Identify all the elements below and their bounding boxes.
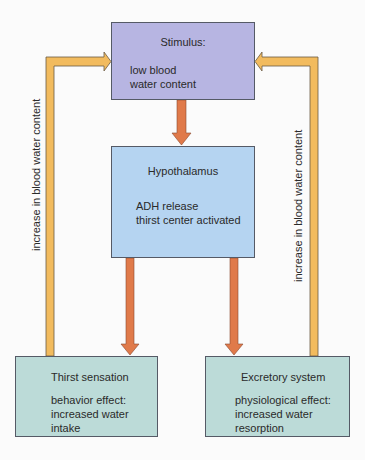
arrow-thirst-to-stimulus (46, 52, 111, 356)
thirst-title: Thirst sensation (51, 370, 129, 384)
thirst-body: behavior effect: increased water intake (51, 393, 129, 435)
arrow-stimulus-to-hypothalamus (172, 100, 191, 145)
hypothalamus-node: Hypothalamus ADH release thirst center a… (111, 146, 255, 258)
excretory-body: physiological effect: increased water re… (235, 393, 331, 435)
stimulus-node: Stimulus: low blood water content (111, 22, 255, 100)
stimulus-title: Stimulus: (112, 35, 254, 49)
hypothalamus-title: Hypothalamus (112, 164, 254, 178)
feedback-label-left: increase in blood water content (30, 99, 42, 251)
arrow-excretory-to-stimulus (255, 52, 318, 356)
hypothalamus-body: ADH release thirst center activated (136, 199, 241, 227)
thirst-sensation-node: Thirst sensation behavior effect: increa… (15, 356, 158, 437)
feedback-label-right: increase in blood water content (292, 130, 304, 282)
excretory-system-node: Excretory system physiological effect: i… (205, 356, 350, 437)
arrow-hypothalamus-to-thirst (121, 258, 139, 355)
arrow-hypothalamus-to-excretory (225, 258, 243, 355)
stimulus-body: low blood water content (130, 63, 196, 91)
excretory-title: Excretory system (241, 370, 325, 384)
